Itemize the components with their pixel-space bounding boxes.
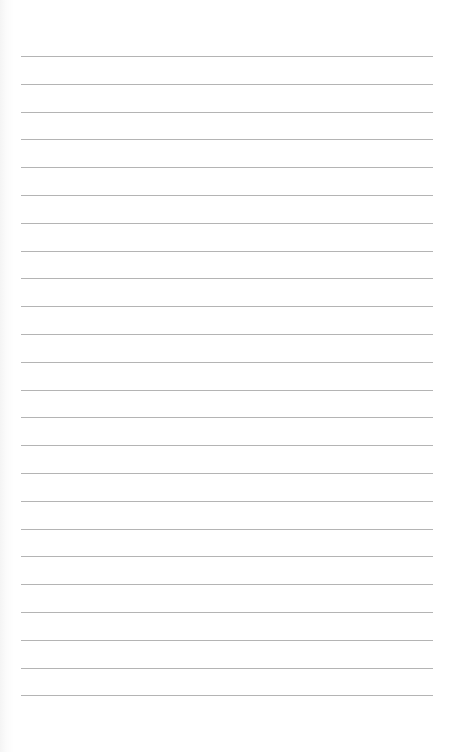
ruled-line bbox=[21, 167, 433, 168]
ruled-line bbox=[21, 501, 433, 502]
ruled-line bbox=[21, 139, 433, 140]
ruled-line bbox=[21, 584, 433, 585]
ruled-line bbox=[21, 640, 433, 641]
ruled-line bbox=[21, 668, 433, 669]
ruled-line bbox=[21, 278, 433, 279]
ruled-line bbox=[21, 334, 433, 335]
ruled-line bbox=[21, 612, 433, 613]
ruled-line bbox=[21, 84, 433, 85]
ruled-line bbox=[21, 195, 433, 196]
ruled-line bbox=[21, 251, 433, 252]
ruled-line bbox=[21, 390, 433, 391]
ruled-line bbox=[21, 223, 433, 224]
ruled-line bbox=[21, 56, 433, 57]
ruled-line bbox=[21, 362, 433, 363]
lined-paper-sheet bbox=[0, 0, 463, 752]
ruled-line bbox=[21, 556, 433, 557]
ruled-line bbox=[21, 473, 433, 474]
ruled-line bbox=[21, 529, 433, 530]
ruled-line bbox=[21, 417, 433, 418]
ruled-line bbox=[21, 306, 433, 307]
ruled-line bbox=[21, 112, 433, 113]
ruled-line bbox=[21, 695, 433, 696]
ruled-line bbox=[21, 445, 433, 446]
